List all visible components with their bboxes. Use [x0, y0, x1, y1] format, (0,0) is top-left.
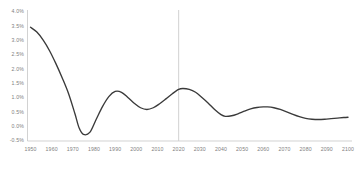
- line-chart: 4.0%3.5%3.0%2.5%2.0%1.5%1.0%0.5%0.0%-0.5…: [0, 0, 360, 169]
- chart-plot-area: [0, 0, 360, 169]
- series-line-growth-rate: [31, 27, 349, 135]
